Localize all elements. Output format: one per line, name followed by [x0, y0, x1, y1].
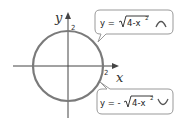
callout-upper-prefix: y = — [100, 18, 115, 28]
callout-lower: y = - 4-x 2 — [97, 82, 173, 114]
circle-diagram: y x 2 2 y = 4-x 2 y = - 4-x 2 — [0, 0, 182, 128]
y-tick-label: 2 — [71, 24, 75, 32]
x-axis-label: x — [116, 70, 124, 85]
callout-upper: y = 4-x 2 — [95, 10, 173, 42]
callout-lower-radicand: 4-x — [132, 98, 146, 108]
y-axis-label: y — [54, 10, 63, 25]
callout-lower-prefix: y = - — [100, 98, 121, 108]
callout-upper-exponent: 2 — [145, 15, 149, 21]
callout-lower-exponent: 2 — [150, 95, 154, 101]
callout-upper-radicand: 4-x — [127, 18, 141, 28]
x-axis-arrow-icon — [112, 63, 119, 69]
x-tick-label: 2 — [104, 69, 108, 77]
y-axis-arrow-icon — [65, 12, 71, 19]
